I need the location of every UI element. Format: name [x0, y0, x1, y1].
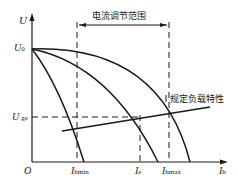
diagram-canvas — [0, 0, 238, 186]
load-characteristic-line — [62, 107, 210, 131]
characteristic-curves — [32, 49, 190, 162]
current-range-label: 电流调节范围 — [92, 12, 146, 21]
uge-label: Uge — [12, 112, 28, 122]
origin-label: O — [24, 166, 31, 176]
bracket-right-arrow-icon — [160, 23, 167, 27]
ihmax-label: Ihmax — [162, 166, 181, 176]
ie-label: Ie — [135, 166, 141, 176]
curve-max — [32, 49, 190, 162]
bracket-left-arrow-icon — [79, 23, 86, 27]
axes — [32, 18, 222, 162]
x-axis-label: Ih — [219, 166, 226, 176]
u0-label: U0 — [14, 43, 25, 53]
y-axis-label: U — [19, 15, 27, 26]
ihmin-label: Ihmin — [71, 166, 89, 176]
curve-mid — [32, 49, 158, 162]
guide-lines — [32, 22, 169, 162]
load-characteristic-label: 规定负载特性 — [170, 95, 224, 104]
x-axis-arrow-icon — [220, 160, 228, 165]
y-axis-arrow-icon — [30, 13, 35, 21]
